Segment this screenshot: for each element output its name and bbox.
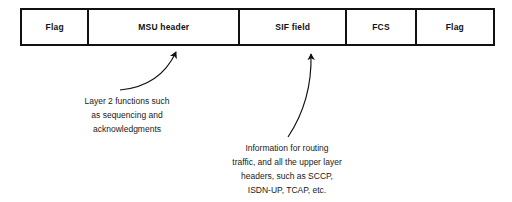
packet-field-flag-opening: Flag [22,10,89,44]
annotation-line: as sequencing and [57,108,197,122]
annotation-line: acknowledgments [57,122,197,136]
annotation-sif-field: Information for routing traffic, and all… [207,141,367,197]
packet-field-label: FCS [372,23,390,32]
packet-field-sif-field: SIF field [240,10,347,44]
packet-field-fcs: FCS [347,10,416,44]
signaling-frame-diagram: Flag MSU header SIF field FCS Flag Layer… [0,0,512,202]
packet-field-label: SIF field [275,23,310,32]
annotation-line: ISDN-UP, TCAP, etc. [207,183,367,197]
packet-field-flag-closing: Flag [417,10,493,44]
packet-field-label: MSU header [138,23,189,32]
packet-field-msu-header: MSU header [89,10,240,44]
packet-frame-bar: Flag MSU header SIF field FCS Flag [20,8,495,46]
callout-arrow-msu-header [120,52,176,90]
packet-field-label: Flag [46,23,64,32]
annotation-msu-header: Layer 2 functions such as sequencing and… [57,94,197,136]
annotation-line: headers, such as SCCP, [207,169,367,183]
callout-arrow-sif-field [288,54,311,137]
packet-field-label: Flag [446,23,464,32]
annotation-line: Information for routing [207,141,367,155]
annotation-line: Layer 2 functions such [57,94,197,108]
annotation-line: traffic, and all the upper layer [207,155,367,169]
